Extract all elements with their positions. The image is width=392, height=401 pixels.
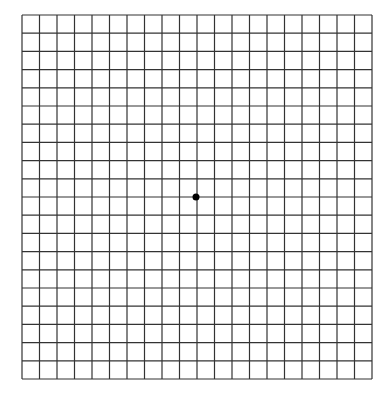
center-fixation-dot — [193, 194, 200, 201]
amsler-grid — [0, 0, 392, 401]
